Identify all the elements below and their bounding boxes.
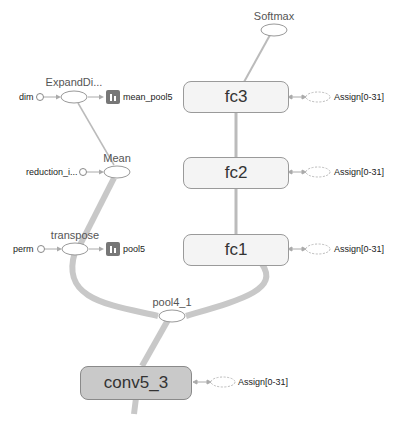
node-fc3[interactable]: fc3	[183, 81, 289, 113]
node-transpose[interactable]: transpose	[51, 229, 99, 241]
node-pool5[interactable]: pool5	[123, 244, 145, 254]
node-fc2[interactable]: fc2	[183, 157, 289, 189]
node-softmax[interactable]: Softmax	[254, 10, 294, 22]
assign-fc3[interactable]: Assign[0-31]	[334, 92, 384, 102]
node-dim[interactable]: dim	[19, 92, 34, 102]
assign-fc2[interactable]: Assign[0-31]	[334, 167, 384, 177]
graph-edges	[0, 0, 394, 422]
node-expand-dims[interactable]: ExpandDi...	[46, 76, 103, 88]
node-reduction-indices[interactable]: reduction_i...	[26, 167, 78, 177]
summary-icon	[106, 242, 120, 256]
summary-icon	[106, 90, 120, 104]
node-pool4-1[interactable]: pool4_1	[152, 296, 191, 308]
node-fc1[interactable]: fc1	[183, 234, 289, 266]
node-mean-pool5[interactable]: mean_pool5	[123, 92, 173, 102]
node-conv5-3[interactable]: conv5_3	[80, 366, 192, 400]
assign-conv5-3[interactable]: Assign[0-31]	[238, 377, 288, 387]
node-mean[interactable]: Mean	[103, 152, 131, 164]
assign-fc1[interactable]: Assign[0-31]	[334, 244, 384, 254]
node-perm[interactable]: perm	[13, 244, 34, 254]
